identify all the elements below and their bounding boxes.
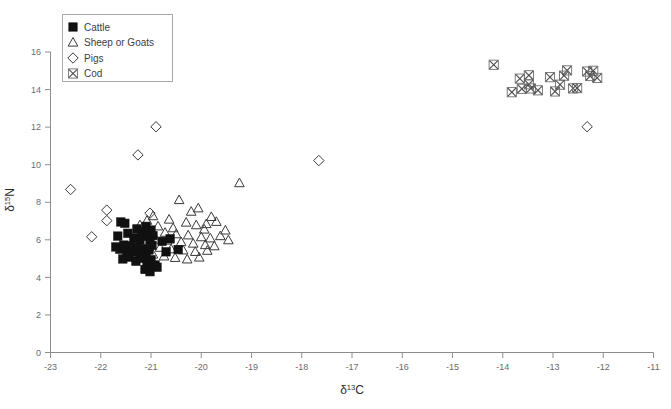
x-tick-label: -14 [496, 362, 509, 372]
data-point [114, 232, 122, 240]
plot-canvas: 0246810121416 δ15N -23-22-21-20-19-18-17… [0, 0, 671, 409]
data-point [158, 237, 166, 245]
cattle-marker [174, 245, 182, 253]
y-tick-label: 4 [36, 273, 41, 283]
x-tick-label: -11 [647, 362, 659, 372]
cattle-marker [153, 263, 161, 271]
y-tick-label: 6 [36, 235, 41, 245]
y-tick-label: 12 [31, 122, 41, 132]
x-tick-label: -23 [44, 362, 57, 372]
x-tick-label: -20 [195, 362, 208, 372]
y-tick-label: 8 [36, 197, 41, 207]
x-tick-label: -15 [446, 362, 459, 372]
scatter-plot-figure: 0246810121416 δ15N -23-22-21-20-19-18-17… [0, 0, 671, 409]
cattle-marker [148, 241, 156, 249]
data-point [174, 245, 182, 253]
x-tick-label: -21 [144, 362, 157, 372]
x-tick-label: -12 [597, 362, 610, 372]
y-tick-label: 10 [31, 160, 41, 170]
cattle-marker [162, 248, 170, 256]
legend-label: Cattle [84, 22, 111, 33]
legend-swatch-icon [69, 23, 77, 31]
x-tick-label: -16 [396, 362, 409, 372]
y-tick-label: 2 [36, 310, 41, 320]
x-tick-label: -18 [295, 362, 308, 372]
legend-label: Cod [84, 68, 102, 79]
y-tick-label: 16 [31, 47, 41, 57]
cattle-marker [114, 232, 122, 240]
cattle-marker [166, 235, 174, 243]
legend-label: Sheep or Goats [84, 37, 154, 48]
cattle-marker [121, 219, 129, 227]
legend: CattleSheep or GoatsPigsCod [63, 15, 173, 82]
data-point [121, 219, 129, 227]
cattle-marker [149, 231, 157, 239]
cattle-marker [158, 237, 166, 245]
data-point [153, 263, 161, 271]
x-tick-label: -19 [245, 362, 258, 372]
x-tick-label: -22 [94, 362, 107, 372]
x-tick-label: -13 [546, 362, 559, 372]
x-tick-label: -17 [345, 362, 358, 372]
y-tick-label: 0 [36, 348, 41, 358]
y-tick-label: 14 [31, 85, 41, 95]
legend-label: Pigs [84, 53, 103, 64]
data-point [162, 248, 170, 256]
data-point [148, 241, 156, 249]
legend-item-cattle[interactable]: Cattle [69, 22, 111, 33]
data-point [149, 231, 157, 239]
cattle-marker [69, 23, 77, 31]
data-point [166, 235, 174, 243]
